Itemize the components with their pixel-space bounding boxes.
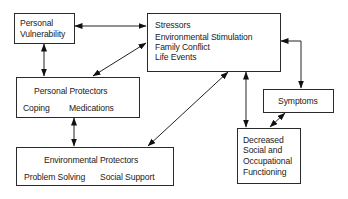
node-title: Personal Protectors xyxy=(34,86,108,96)
node-personal-vulnerability: Personal Vulnerability xyxy=(14,13,75,44)
node-label-line: Decreased xyxy=(243,135,284,145)
node-item: Family Conflict xyxy=(155,42,210,52)
node-label-line: Social and xyxy=(243,145,282,155)
node-label-line: Functioning xyxy=(243,167,286,177)
node-symptoms: Symptoms xyxy=(263,89,334,113)
arrow-personal-protectors-stressors xyxy=(93,43,146,76)
node-item: Environmental Stimulation xyxy=(155,32,252,42)
node-decreased-functioning: Decreased Social and Occupational Functi… xyxy=(237,128,301,184)
arrow-stressors-symptoms xyxy=(281,41,301,88)
node-item: Medications xyxy=(69,103,114,113)
node-title: Environmental Protectors xyxy=(44,155,138,165)
node-item: Social Support xyxy=(100,172,155,182)
node-label-line: Personal xyxy=(20,18,53,28)
node-label-line: Occupational xyxy=(243,156,292,166)
node-title: Symptoms xyxy=(278,96,318,106)
node-item: Coping xyxy=(23,103,50,113)
node-item: Problem Solving xyxy=(24,172,85,182)
node-label-line: Vulnerability xyxy=(20,29,65,39)
node-stressors: Stressors Environmental Stimulation Fami… xyxy=(147,13,281,72)
stress-vulnerability-diagram: Personal Vulnerability Stressors Environ… xyxy=(0,0,348,199)
node-environmental-protectors: Environmental Protectors Problem Solving… xyxy=(16,147,174,186)
node-item: Life Events xyxy=(155,52,196,62)
arrow-environmental-protectors-stressors xyxy=(148,72,228,146)
node-title: Stressors xyxy=(155,20,190,30)
arrow-symptoms-decreased-functioning xyxy=(270,113,285,127)
node-personal-protectors: Personal Protectors Coping Medications xyxy=(16,77,140,118)
